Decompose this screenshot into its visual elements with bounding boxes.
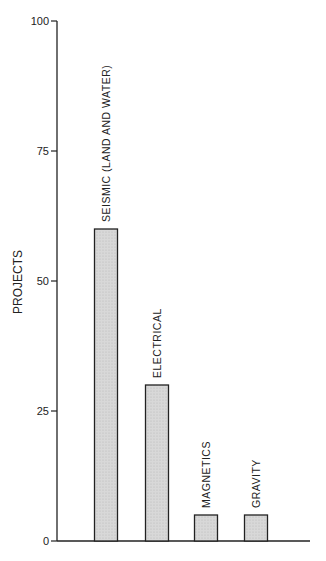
bar-category-label: ELECTRICAL (151, 308, 163, 378)
y-tick-label: 100 (31, 15, 49, 27)
y-tick-label: 50 (37, 275, 49, 287)
y-tick-label: 75 (37, 145, 49, 157)
bar (95, 229, 118, 541)
bars: SEISMIC (LAND AND WATER)ELECTRICALMAGNET… (95, 65, 268, 541)
bar-category-label: MAGNETICS (200, 441, 212, 508)
bar (146, 385, 169, 541)
axes: 0255075100 (31, 15, 310, 547)
bar-category-label: GRAVITY (250, 459, 262, 508)
y-tick-label: 25 (37, 405, 49, 417)
bar-chart: 0255075100 SEISMIC (LAND AND WATER)ELECT… (0, 0, 326, 561)
bar-category-label: SEISMIC (LAND AND WATER) (100, 65, 112, 222)
chart-canvas: 0255075100 SEISMIC (LAND AND WATER)ELECT… (0, 0, 326, 561)
y-axis-label: PROJECTS (11, 250, 25, 314)
bar (245, 515, 268, 541)
y-tick-label: 0 (43, 535, 49, 547)
bar (195, 515, 218, 541)
